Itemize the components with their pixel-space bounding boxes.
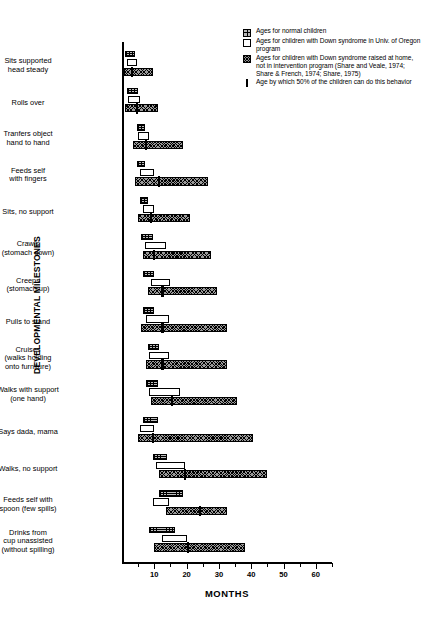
milestone-label: Cruises(walks holdingonto furniture) <box>0 346 118 372</box>
x-axis-tick <box>170 563 171 567</box>
y-axis-title: DEVELOPMENTAL MILESTONES <box>32 205 42 405</box>
milestone-label: Feeds self withspoon (few spills) <box>0 497 118 514</box>
bar-oregon <box>151 279 170 286</box>
median-age-tick <box>161 323 163 334</box>
bar-home <box>135 177 208 185</box>
median-age-tick <box>199 506 201 517</box>
bar-oregon <box>149 352 168 359</box>
bar-normal <box>137 124 145 130</box>
bar-normal <box>146 380 157 386</box>
bar-oregon <box>127 59 137 66</box>
milestone-label: Creeps(stomach up) <box>0 277 118 294</box>
bar-home <box>138 434 253 442</box>
milestone-label: Walks, no support <box>0 464 118 473</box>
milestone-row: Crawls(stomach down) <box>122 231 424 267</box>
bar-home <box>154 543 244 551</box>
x-axis-tick-label: 20 <box>182 570 190 579</box>
x-axis-title: MONTHS <box>122 588 332 599</box>
x-axis-tick-label: 10 <box>150 570 158 579</box>
median-age-tick <box>136 103 138 114</box>
bar-home <box>141 324 227 332</box>
milestone-row: Tranfers objecthand to hand <box>122 121 424 157</box>
median-age-tick <box>131 67 133 78</box>
milestone-label: Rolls over <box>0 98 118 107</box>
bar-home <box>138 214 190 222</box>
median-age-tick <box>158 176 160 187</box>
x-axis-tick <box>284 563 285 569</box>
milestone-row: Pulls to stand <box>122 304 424 340</box>
milestone-row: Walks, no support <box>122 451 424 487</box>
milestone-label: Feeds selfwith fingers <box>0 167 118 184</box>
bar-normal <box>143 307 154 313</box>
median-age-tick <box>184 469 186 480</box>
bar-normal <box>153 454 168 460</box>
bar-home <box>159 470 267 478</box>
milestone-label: Crawls(stomach down) <box>0 240 118 257</box>
milestone-label: Tranfers objecthand to hand <box>0 131 118 148</box>
milestone-row: Feeds selfwith fingers <box>122 158 424 194</box>
median-age-tick <box>161 359 163 370</box>
x-axis-tick <box>332 563 333 567</box>
milestone-label: Pulls to stand <box>0 318 118 327</box>
x-axis-tick <box>203 563 204 567</box>
bar-normal <box>141 234 152 240</box>
milestone-label: Sits supportedhead steady <box>0 57 118 74</box>
x-axis-tick <box>235 563 236 567</box>
milestone-row: Rolls over <box>122 85 424 121</box>
x-axis-tick <box>219 563 220 569</box>
bar-home <box>133 141 183 149</box>
bar-home <box>146 360 227 368</box>
bar-home <box>148 287 217 295</box>
milestone-label: Walks with support(one hand) <box>0 387 118 404</box>
milestone-row: Sits, no support <box>122 194 424 230</box>
x-axis-tick <box>138 563 139 567</box>
plot-area: 102030405060Sits supportedhead steadyRol… <box>122 42 332 562</box>
bar-home <box>166 507 227 515</box>
milestone-row: Walks with support(one hand) <box>122 377 424 413</box>
bar-oregon <box>149 388 180 395</box>
median-age-tick <box>150 213 152 224</box>
bar-oregon <box>156 462 185 469</box>
legend-label: Ages for normal children <box>256 27 326 35</box>
milestone-row: Cruises(walks holdingonto furniture) <box>122 341 424 377</box>
x-axis-tick <box>251 563 252 569</box>
milestone-row: Creeps(stomach up) <box>122 268 424 304</box>
bar-normal <box>149 527 175 533</box>
bar-oregon <box>143 205 154 212</box>
bar-normal <box>159 490 183 496</box>
developmental-milestones-chart: Ages for normal childrenAges for childre… <box>0 0 424 629</box>
bar-home <box>125 104 157 112</box>
legend-item: Ages for normal children <box>243 27 421 37</box>
x-axis-tick-label: 40 <box>247 570 255 579</box>
x-axis-tick <box>187 563 188 569</box>
bar-oregon <box>153 498 169 505</box>
bar-oregon <box>145 242 166 249</box>
x-axis-tick <box>267 563 268 567</box>
median-age-tick <box>161 286 163 297</box>
milestone-row: Sits supportedhead steady <box>122 48 424 84</box>
x-axis-tick <box>300 563 301 567</box>
bar-oregon <box>140 425 155 432</box>
bar-normal <box>148 344 159 350</box>
milestone-label: Drinks fromcup unassisted(without spilli… <box>0 529 118 555</box>
bar-home <box>124 68 153 76</box>
bar-normal <box>143 271 154 277</box>
x-axis-tick <box>316 563 317 569</box>
x-axis-tick-label: 30 <box>215 570 223 579</box>
bar-normal <box>140 197 148 203</box>
normal-swatch-icon <box>243 29 251 37</box>
x-axis-tick-label: 50 <box>279 570 287 579</box>
milestone-row: Says dada, mama <box>122 414 424 450</box>
bar-oregon <box>162 535 186 542</box>
bar-normal <box>137 161 145 167</box>
bar-oregon <box>140 169 155 176</box>
bar-oregon <box>128 96 139 103</box>
milestone-label: Says dada, mama <box>0 428 118 437</box>
milestone-label: Sits, no support <box>0 208 118 217</box>
bar-normal <box>127 88 138 94</box>
median-age-tick <box>145 140 147 151</box>
median-age-tick <box>152 433 154 444</box>
bar-oregon <box>146 315 169 322</box>
x-axis-tick-label: 60 <box>312 570 320 579</box>
bar-oregon <box>138 132 149 139</box>
